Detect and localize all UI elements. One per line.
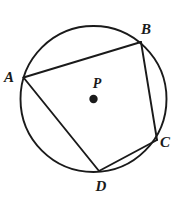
circle-diagram-canvas: P A B C D: [0, 0, 181, 198]
vertex-label-b: B: [140, 21, 151, 37]
center-point-dot: [89, 95, 97, 103]
geometry-figure: P A B C D: [0, 0, 181, 198]
vertex-label-d: D: [95, 178, 107, 194]
chord-bc: [141, 42, 157, 140]
chord-cd: [99, 140, 157, 171]
vertex-label-c: C: [160, 134, 171, 150]
vertex-label-a: A: [3, 69, 14, 85]
chord-da: [24, 78, 100, 172]
center-label-p: P: [93, 76, 102, 91]
